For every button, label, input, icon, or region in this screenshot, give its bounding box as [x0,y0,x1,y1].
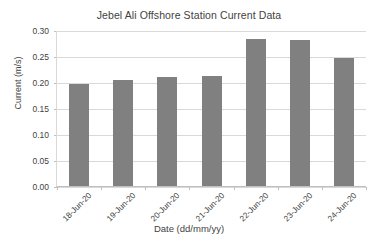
bar[interactable] [246,39,266,186]
x-tick-label: 21-Jun-20 [193,193,223,223]
y-tick-label: 0.10 [32,130,49,140]
y-axis-ticks: 0.000.050.100.150.200.250.30 [0,31,57,187]
chart-title: Jebel Ali Offshore Station Current Data [0,9,378,21]
x-tick-label: 24-Jun-20 [326,193,356,223]
x-tick-label: 20-Jun-20 [149,193,179,223]
bar[interactable] [202,76,222,186]
bar[interactable] [69,84,89,186]
x-tick-mark [189,187,190,190]
x-tick-mark [366,187,367,190]
bar-series [57,31,366,187]
x-tick-label: 23-Jun-20 [282,193,312,223]
bar[interactable] [157,77,177,186]
y-tick-label: 0.20 [32,78,49,88]
y-tick-label: 0.30 [32,26,49,36]
plot-area [57,31,366,187]
y-tick-label: 0.15 [32,104,49,114]
y-tick-label: 0.00 [32,182,49,192]
x-tick-mark [234,187,235,190]
x-tick-label: 19-Jun-20 [105,193,135,223]
y-tick-label: 0.05 [32,156,49,166]
bar[interactable] [290,40,310,186]
chart-container: Jebel Ali Offshore Station Current Data … [0,0,378,244]
y-tick-label: 0.25 [32,52,49,62]
x-tick-mark [101,187,102,190]
x-tick-label: 22-Jun-20 [238,193,268,223]
x-tick-mark [322,187,323,190]
bar[interactable] [113,80,133,186]
x-tick-mark [145,187,146,190]
x-tick-mark [57,187,58,190]
x-axis-title: Date (dd/mm/yy) [0,223,378,234]
x-axis-ticks: 18-Jun-2019-Jun-2020-Jun-2021-Jun-2022-J… [57,187,366,227]
bar[interactable] [334,58,354,186]
x-tick-mark [278,187,279,190]
x-tick-label: 18-Jun-20 [61,193,91,223]
